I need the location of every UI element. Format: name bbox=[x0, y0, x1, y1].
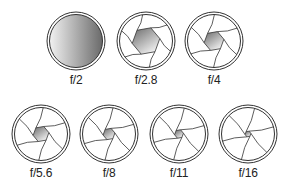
aperture-icon bbox=[44, 9, 108, 73]
f-stop-label: f/4 bbox=[184, 73, 244, 87]
aperture-icon bbox=[216, 102, 280, 166]
aperture-icon bbox=[147, 102, 211, 166]
aperture-f-8 bbox=[77, 102, 141, 166]
aperture-icon bbox=[182, 9, 246, 73]
f-stop-label: f/2 bbox=[46, 73, 106, 87]
aperture-f-2-8 bbox=[114, 9, 178, 73]
aperture-f-5-6 bbox=[9, 102, 73, 166]
aperture-f-16 bbox=[216, 102, 280, 166]
f-stop-label: f/16 bbox=[218, 166, 278, 180]
aperture-icon bbox=[77, 102, 141, 166]
aperture-icon bbox=[114, 9, 178, 73]
f-stop-label: f/5.6 bbox=[11, 166, 71, 180]
f-stop-label: f/8 bbox=[79, 166, 139, 180]
f-stop-label: f/2.8 bbox=[116, 73, 176, 87]
aperture-f-11 bbox=[147, 102, 211, 166]
aperture-icon bbox=[9, 102, 73, 166]
aperture-f-4 bbox=[182, 9, 246, 73]
aperture-f-2 bbox=[44, 9, 108, 73]
f-stop-label: f/11 bbox=[149, 166, 209, 180]
